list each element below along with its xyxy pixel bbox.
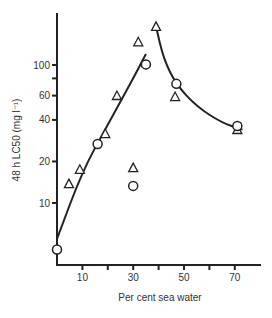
circle-marker xyxy=(141,60,150,69)
circle-marker xyxy=(53,245,62,254)
y-axis-label: 48 h LC50 (mg l⁻¹) xyxy=(11,99,22,182)
data-markers xyxy=(53,22,242,254)
x-tick-label: 30 xyxy=(128,272,140,283)
circle-marker xyxy=(93,139,102,148)
axes xyxy=(56,13,261,266)
y-tick-label: 100 xyxy=(33,60,50,71)
x-tick-label: 10 xyxy=(77,272,89,283)
falling-fit-curve xyxy=(156,27,242,130)
circle-marker xyxy=(233,122,242,131)
x-tick-label: 50 xyxy=(178,272,190,283)
y-tick-label: 20 xyxy=(39,156,51,167)
y-tick-label: 60 xyxy=(39,90,51,101)
triangle-marker xyxy=(134,37,143,46)
triangle-marker xyxy=(64,179,73,188)
y-tick-label: 10 xyxy=(39,198,51,209)
x-tick-label: 70 xyxy=(229,272,241,283)
circle-marker xyxy=(129,181,138,190)
triangle-marker xyxy=(112,91,121,100)
y-tick-label: 40 xyxy=(39,114,51,125)
y-ticks: 10204060100 xyxy=(33,60,57,209)
fitted-curves xyxy=(57,27,242,239)
circle-marker xyxy=(172,79,181,88)
triangle-marker xyxy=(152,22,161,31)
triangle-marker xyxy=(129,163,138,172)
x-axis-label: Per cent sea water xyxy=(118,292,202,303)
lc50-chart: 10305070 10204060100 Per cent sea water … xyxy=(0,0,272,318)
triangle-marker xyxy=(75,165,84,174)
x-ticks: 10305070 xyxy=(77,265,241,283)
triangle-marker xyxy=(171,92,180,101)
